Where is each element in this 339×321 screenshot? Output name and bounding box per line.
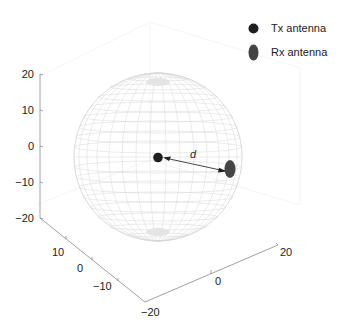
legend-tx-marker-icon — [249, 24, 259, 34]
rx-antenna-marker — [225, 160, 236, 178]
x-axis-ticks: −20 0 20 — [141, 246, 292, 318]
x-tick: −20 — [141, 306, 160, 318]
z-tick: −10 — [15, 176, 34, 188]
y-axis-ticks: 10 0 −10 — [52, 246, 112, 292]
legend-tx-label: Tx antenna — [271, 22, 327, 34]
tx-antenna-marker — [153, 153, 163, 163]
antenna-sphere-diagram: 20 10 0 −10 −20 10 0 −10 −20 0 20 — [0, 0, 339, 321]
legend-rx-marker-icon — [249, 45, 259, 61]
x-tick: 20 — [280, 246, 292, 258]
distance-arrow: d — [163, 148, 227, 173]
distance-label: d — [190, 148, 197, 160]
back-grid — [36, 22, 300, 205]
z-axis-ticks: 20 10 0 −10 −20 — [15, 68, 34, 224]
y-tick: 0 — [77, 262, 83, 274]
legend: Tx antenna Rx antenna — [249, 22, 329, 61]
y-tick: −10 — [93, 280, 112, 292]
legend-rx-label: Rx antenna — [271, 46, 328, 58]
x-tick: 0 — [215, 275, 221, 287]
y-tick: 10 — [52, 246, 64, 258]
z-tick: 0 — [28, 140, 34, 152]
z-tick: 20 — [22, 68, 34, 80]
z-tick: −20 — [15, 212, 34, 224]
x-axis-line — [145, 245, 278, 302]
z-tick: 10 — [22, 104, 34, 116]
